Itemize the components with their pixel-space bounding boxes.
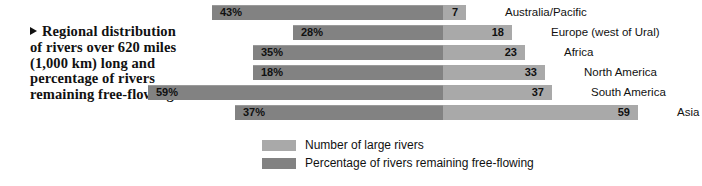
percent-value-label: 35%	[261, 45, 283, 60]
count-value-label: 18	[472, 25, 504, 40]
region-label: Asia	[677, 105, 699, 120]
region-label: Australia/Pacific	[505, 5, 587, 20]
legend-item-percent: Percentage of rivers remaining free-flow…	[262, 155, 534, 171]
chart-row: 59%37South America	[0, 85, 702, 100]
region-label: Africa	[564, 45, 593, 60]
chart-row: 43%7Australia/Pacific	[0, 5, 702, 20]
chart-row: 35%23Africa	[0, 45, 702, 60]
count-value-label: 33	[505, 65, 537, 80]
count-value-label: 7	[426, 5, 458, 20]
legend-label-count: Number of large rivers	[305, 138, 424, 152]
percent-value-label: 43%	[220, 5, 242, 20]
percent-value-label: 37%	[243, 105, 265, 120]
chart-row: 37%59Asia	[0, 105, 702, 120]
region-label: Europe (west of Ural)	[551, 25, 660, 40]
legend-label-percent: Percentage of rivers remaining free-flow…	[305, 156, 534, 170]
bar-percent-free-flowing	[148, 85, 443, 100]
region-label: North America	[584, 65, 657, 80]
count-value-label: 37	[512, 85, 544, 100]
bar-percent-free-flowing	[212, 5, 443, 20]
legend-item-count: Number of large rivers	[262, 137, 534, 153]
percent-value-label: 59%	[156, 85, 178, 100]
light-gray-swatch-icon	[262, 140, 296, 151]
plot-area: 43%7Australia/Pacific28%18Europe (west o…	[0, 0, 702, 131]
chart-legend: Number of large rivers Percentage of riv…	[262, 137, 534, 173]
bar-percent-free-flowing	[235, 105, 443, 120]
chart-figure: Regional distribution of rivers over 620…	[0, 0, 702, 186]
percent-value-label: 18%	[261, 65, 283, 80]
chart-row: 18%33North America	[0, 65, 702, 80]
dark-gray-swatch-icon	[262, 158, 296, 169]
count-value-label: 23	[485, 45, 517, 60]
count-value-label: 59	[598, 105, 630, 120]
percent-value-label: 28%	[301, 25, 323, 40]
region-label: South America	[591, 85, 666, 100]
chart-row: 28%18Europe (west of Ural)	[0, 25, 702, 40]
